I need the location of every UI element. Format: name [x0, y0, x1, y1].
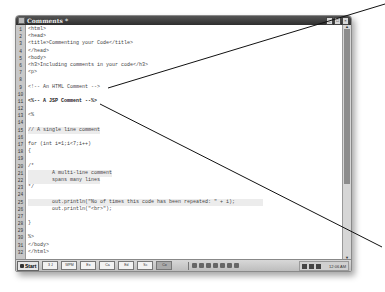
quick-launch-icon[interactable]: [192, 263, 197, 268]
line-number: 31: [16, 242, 25, 249]
line-number: 11: [16, 98, 25, 105]
println-line: out.println("No of times this code has b…: [28, 199, 263, 206]
code-line: 7<p>: [16, 69, 343, 76]
line-text: <body>: [28, 55, 46, 62]
code-line: 15// A single line comment: [16, 127, 343, 134]
line-number: 29: [16, 227, 25, 234]
quick-launch: [192, 263, 239, 268]
line-number: 32: [16, 249, 25, 256]
screenshot-stage: Comments * _ □ × 1<html> 2<head> 3<title…: [0, 0, 385, 292]
quick-launch-icon[interactable]: [234, 263, 239, 268]
line-number: 20: [16, 163, 25, 170]
line-text: %>: [28, 234, 34, 241]
scrollbar-thumb[interactable]: [344, 29, 350, 184]
code-line: 28}: [16, 220, 343, 227]
code-line: 30%>: [16, 234, 343, 241]
code-line: 8: [16, 76, 343, 83]
line-text: <title>Commenting your Code</title>: [28, 40, 133, 47]
line-number: 23: [16, 184, 25, 191]
code-line: 32</html>: [16, 249, 343, 256]
code-line: 22 spans many lines: [16, 177, 343, 184]
line-number: 12: [16, 105, 25, 112]
line-number: 19: [16, 155, 25, 162]
tray-icon[interactable]: [316, 264, 321, 269]
line-number: 4: [16, 48, 25, 55]
taskbar: Start 3 J WPM Ex Ca Ed Sc Co: [16, 259, 351, 271]
line-number: 9: [16, 84, 25, 91]
line-text: {: [28, 148, 31, 155]
system-tray: 12:06 AM: [299, 261, 349, 271]
line-number: 7: [16, 69, 25, 76]
tray-icon[interactable]: [302, 264, 307, 269]
line-number: 3: [16, 40, 25, 47]
minimize-button[interactable]: _: [326, 17, 333, 25]
code-line: 16: [16, 134, 343, 141]
quick-launch-icon[interactable]: [199, 263, 204, 268]
code-line: 2<head>: [16, 33, 343, 40]
line-text: <h3>Including comments in your code</h3>: [28, 62, 148, 69]
line-number: 14: [16, 119, 25, 126]
code-line: 18{: [16, 148, 343, 155]
line-text: <p>: [28, 69, 37, 76]
code-line: 23*/: [16, 184, 343, 191]
code-line: 14: [16, 119, 343, 126]
window-title: Comments *: [27, 16, 68, 25]
taskbar-button[interactable]: WPM: [61, 261, 77, 270]
code-line: 13<%: [16, 112, 343, 119]
taskbar-button[interactable]: Ex: [80, 261, 96, 270]
line-text: <%: [28, 112, 34, 119]
code-line: 29: [16, 227, 343, 234]
taskbar-button[interactable]: Sc: [137, 261, 153, 270]
line-number: 27: [16, 213, 25, 220]
code-line: 27: [16, 213, 343, 220]
code-line: 12: [16, 105, 343, 112]
line-number: 13: [16, 112, 25, 119]
code-line: 19: [16, 155, 343, 162]
code-line: 1<html>: [16, 26, 343, 33]
code-line: 26 out.println("<br>");: [16, 206, 343, 213]
editor-window: Comments * _ □ × 1<html> 2<head> 3<title…: [15, 15, 352, 272]
single-line-comment: // A single line comment: [28, 127, 100, 134]
line-text: <html>: [28, 26, 46, 33]
maximize-button[interactable]: □: [334, 17, 341, 25]
code-line: 10: [16, 91, 343, 98]
tray-icon[interactable]: [309, 264, 314, 269]
line-number: 18: [16, 148, 25, 155]
line-number: 5: [16, 55, 25, 62]
line-number: 1: [16, 26, 25, 33]
taskbar-button[interactable]: 3 J: [42, 261, 58, 270]
code-line: 9<!-- An HTML Comment -->: [16, 84, 343, 91]
line-text: </head>: [28, 48, 49, 55]
taskbar-button-active[interactable]: Co: [156, 261, 172, 270]
code-line: 4</head>: [16, 48, 343, 55]
code-line: 6<h3>Including comments in your code</h3…: [16, 62, 343, 69]
code-line: 24: [16, 191, 343, 198]
line-text: </body>: [28, 242, 49, 249]
title-bar[interactable]: Comments * _ □ ×: [16, 16, 351, 25]
start-button[interactable]: Start: [17, 261, 39, 271]
for-loop-line: for (int i=1;i<7;i++): [28, 141, 91, 148]
html-comment-line: <!-- An HTML Comment -->: [28, 84, 100, 91]
println-line: out.println("<br>");: [28, 206, 112, 213]
line-number: 21: [16, 170, 25, 177]
quick-launch-icon[interactable]: [220, 263, 225, 268]
quick-launch-icon[interactable]: [213, 263, 218, 268]
jsp-comment-line: <%-- A JSP Comment --%>: [28, 98, 97, 105]
quick-launch-icon[interactable]: [206, 263, 211, 268]
line-number: 25: [16, 199, 25, 206]
line-text: /*: [28, 163, 34, 170]
vertical-scrollbar[interactable]: ▲ ▼: [342, 25, 351, 260]
code-line: 3<title>Commenting your Code</title>: [16, 40, 343, 47]
line-number: 17: [16, 141, 25, 148]
windows-logo-icon: [20, 264, 24, 268]
line-number: 16: [16, 134, 25, 141]
code-line: 20/*: [16, 163, 343, 170]
line-number: 8: [16, 76, 25, 83]
quick-launch-icon[interactable]: [227, 263, 232, 268]
code-editor[interactable]: 1<html> 2<head> 3<title>Commenting your …: [16, 25, 343, 260]
taskbar-button[interactable]: Ca: [99, 261, 115, 270]
line-text: */: [28, 184, 34, 191]
line-number: 30: [16, 234, 25, 241]
taskbar-button[interactable]: Ed: [118, 261, 134, 270]
code-line: 11<%-- A JSP Comment --%>: [16, 98, 343, 105]
